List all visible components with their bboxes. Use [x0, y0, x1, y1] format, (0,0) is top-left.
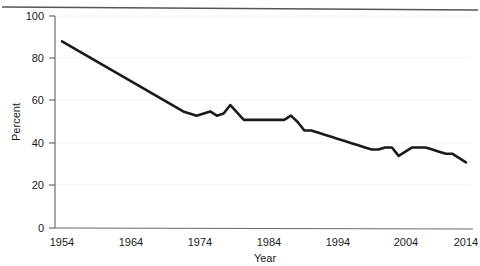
y-tick-label-100: 100 — [26, 10, 44, 22]
x-tick-label-1954: 1954 — [50, 236, 74, 248]
x-tick-label-1964: 1964 — [119, 236, 143, 248]
x-tick-label-1994: 1994 — [326, 236, 350, 248]
line-chart-svg: 100 80 60 40 20 0 Percent 1954 1964 1974… — [0, 0, 480, 266]
data-line-percent — [62, 41, 466, 162]
x-tick-label-1974: 1974 — [188, 236, 212, 248]
x-tick-label-2004: 2004 — [394, 236, 418, 248]
x-axis-line — [55, 228, 473, 229]
y-tick-label-20: 20 — [32, 179, 44, 191]
y-tick-label-60: 60 — [32, 94, 44, 106]
y-tick-label-40: 40 — [32, 137, 44, 149]
y-axis-title: Percent — [10, 103, 22, 141]
x-axis-title: Year — [254, 252, 277, 264]
y-tick-label-80: 80 — [32, 52, 44, 64]
chart-figure: 100 80 60 40 20 0 Percent 1954 1964 1974… — [0, 0, 480, 266]
y-axis-ticks — [49, 16, 55, 228]
gridlines — [55, 16, 471, 185]
x-tick-label-2014: 2014 — [454, 236, 478, 248]
y-tick-label-0: 0 — [38, 222, 44, 234]
page-top-rule — [2, 7, 478, 10]
x-tick-label-1984: 1984 — [257, 236, 281, 248]
